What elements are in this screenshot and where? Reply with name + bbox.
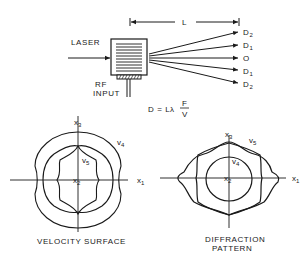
svg-text:v4: v4	[117, 138, 125, 148]
bragg-cell	[111, 39, 147, 75]
svg-text:V: V	[182, 110, 188, 119]
svg-text:v5: v5	[82, 156, 90, 166]
diffraction-caption-line1: DIFFRACTION	[205, 235, 265, 244]
svg-text:F: F	[182, 99, 188, 108]
diffraction-pattern-plot	[160, 135, 286, 228]
svg-text:D1: D1	[243, 67, 253, 77]
svg-text:x2: x2	[224, 174, 232, 184]
velocity-surface-caption: VELOCITY SURFACE	[37, 237, 126, 246]
rf-label: RF	[95, 80, 107, 89]
svg-text:x1: x1	[137, 176, 145, 186]
input-label: INPUT	[93, 89, 120, 98]
acousto-optic-diagram: LASER RF INPUT	[0, 0, 305, 256]
svg-text:x1: x1	[292, 174, 300, 184]
formula: D = L λ F V	[148, 99, 189, 119]
order-labels: D2 D1 O D1 D2	[243, 28, 253, 90]
diffracted-beams	[149, 32, 238, 83]
length-label: L	[182, 18, 187, 27]
laser-label: LASER	[71, 38, 100, 47]
svg-text:D1: D1	[243, 41, 253, 51]
svg-text:D2: D2	[243, 80, 253, 90]
svg-text:λ: λ	[170, 105, 175, 114]
transducer	[117, 75, 141, 97]
diffraction-caption-line2: PATTERN	[212, 244, 252, 253]
svg-text:x3: x3	[225, 130, 233, 140]
svg-text:O: O	[243, 54, 250, 63]
svg-text:D = L: D = L	[148, 105, 170, 114]
velocity-surface-plot	[10, 116, 128, 232]
svg-text:v5: v5	[249, 136, 257, 146]
svg-text:x2: x2	[73, 176, 81, 186]
svg-text:D2: D2	[243, 28, 253, 38]
